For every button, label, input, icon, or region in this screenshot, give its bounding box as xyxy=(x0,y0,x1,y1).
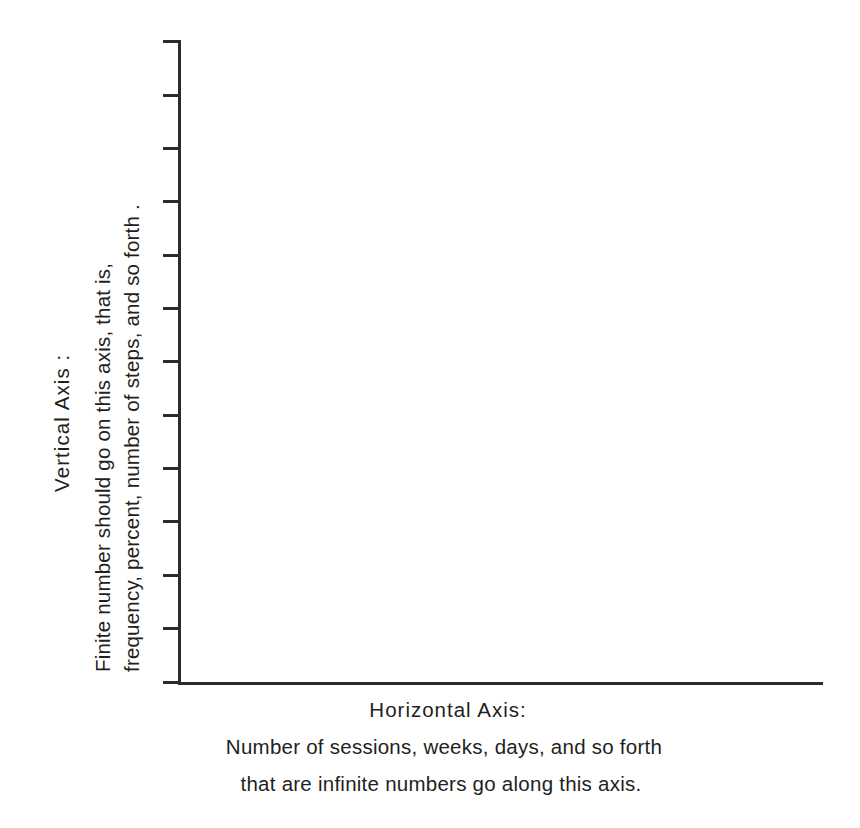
horizontal-axis-heading: Horizontal Axis: xyxy=(0,700,860,721)
horizontal-axis-line xyxy=(178,682,823,685)
axis-tick-5 xyxy=(163,307,179,310)
axis-tick-2 xyxy=(163,147,179,150)
axis-tick-7 xyxy=(163,414,179,417)
axis-tick-12 xyxy=(163,681,179,684)
axis-tick-10 xyxy=(163,574,179,577)
axis-tick-0 xyxy=(163,40,179,43)
axis-tick-4 xyxy=(163,254,179,257)
axis-tick-8 xyxy=(163,467,179,470)
vertical-axis-heading: Vertical Axis : xyxy=(52,354,73,492)
vertical-axis-description-line-2: frequency, percent, number of steps, and… xyxy=(122,204,143,672)
vertical-axis-description-line-1: Finite number should go on this axis, th… xyxy=(93,263,114,672)
axis-tick-6 xyxy=(163,360,179,363)
axis-tick-3 xyxy=(163,200,179,203)
axis-tick-1 xyxy=(163,94,179,97)
axis-explanation-figure: Vertical Axis : Finite number should go … xyxy=(0,0,860,828)
horizontal-axis-description-line-1: Number of sessions, weeks, days, and so … xyxy=(0,737,860,758)
axis-tick-9 xyxy=(163,520,179,523)
plot-area xyxy=(181,40,823,682)
axis-tick-11 xyxy=(163,627,179,630)
horizontal-axis-description-line-2: that are infinite numbers go along this … xyxy=(0,774,860,795)
